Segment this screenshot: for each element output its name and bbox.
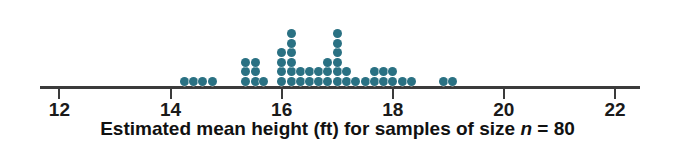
x-axis-line — [40, 86, 640, 89]
data-dot — [277, 67, 286, 76]
data-dot — [287, 77, 296, 86]
x-tick-14 — [170, 89, 172, 99]
data-dot — [277, 48, 286, 57]
data-dot — [333, 48, 342, 57]
data-dot — [342, 77, 351, 86]
data-dot — [333, 29, 342, 38]
data-dot — [251, 58, 260, 67]
data-dot — [305, 77, 314, 86]
x-tick-20 — [503, 89, 505, 99]
data-dot — [259, 77, 268, 86]
x-tick-18 — [392, 89, 394, 99]
data-dot — [241, 67, 250, 76]
data-dot — [287, 29, 296, 38]
data-dot — [351, 77, 360, 86]
data-dot — [287, 48, 296, 57]
data-dot — [370, 67, 379, 76]
data-dot — [314, 67, 323, 76]
data-dot — [379, 67, 388, 76]
data-dot — [296, 77, 305, 86]
data-dot — [277, 58, 286, 67]
data-dot — [287, 58, 296, 67]
caption-variable: n — [520, 118, 532, 139]
data-dot — [398, 77, 407, 86]
data-dot — [388, 77, 397, 86]
axis-caption: Estimated mean height (ft) for samples o… — [0, 118, 675, 140]
data-dot — [323, 67, 332, 76]
data-dot — [323, 58, 332, 67]
data-dot — [379, 77, 388, 86]
data-dot — [277, 77, 286, 86]
data-dot — [361, 77, 370, 86]
caption-prefix: Estimated mean height (ft) for samples o… — [100, 118, 520, 139]
data-dot — [208, 77, 217, 86]
data-dot — [296, 67, 305, 76]
data-dot — [305, 67, 314, 76]
data-dot — [388, 67, 397, 76]
data-dot — [333, 58, 342, 67]
plot-area: 121416182022 — [0, 0, 675, 95]
dotplot-figure: 121416182022 Estimated mean height (ft) … — [0, 0, 675, 154]
data-dot — [314, 77, 323, 86]
x-tick-16 — [281, 89, 283, 99]
data-dot — [342, 67, 351, 76]
data-dot — [251, 77, 260, 86]
data-dot — [439, 77, 448, 86]
data-dot — [287, 39, 296, 48]
data-dot — [333, 39, 342, 48]
data-dot — [241, 58, 250, 67]
x-tick-12 — [58, 89, 60, 99]
data-dot — [241, 77, 250, 86]
caption-suffix: = 80 — [532, 118, 575, 139]
data-dot — [287, 67, 296, 76]
data-dot — [370, 77, 379, 86]
data-dot — [251, 67, 260, 76]
x-tick-22 — [614, 89, 616, 99]
data-dot — [198, 77, 207, 86]
data-dot — [407, 77, 416, 86]
data-dot — [189, 77, 198, 86]
data-dot — [180, 77, 189, 86]
data-dot — [323, 77, 332, 86]
data-dot — [448, 77, 457, 86]
data-dot — [333, 77, 342, 86]
data-dot — [333, 67, 342, 76]
